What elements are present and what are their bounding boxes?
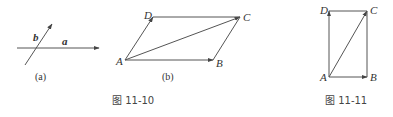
point-B-label: B — [216, 58, 223, 69]
figure-11-10-caption: 图 11-10 — [112, 96, 154, 106]
vector-b-label: b — [33, 32, 39, 43]
point-D-label: D — [320, 5, 328, 16]
vector-AC-arrow — [125, 17, 240, 60]
point-A-label: A — [116, 56, 123, 67]
point-C-label: C — [243, 12, 250, 23]
point-B-label: B — [370, 72, 377, 83]
vector-AC-arrow — [329, 11, 367, 77]
vector-AD-arrow — [125, 17, 153, 60]
point-D-label: D — [144, 10, 152, 21]
subfigure-a-label: (a) — [35, 72, 46, 82]
subfigure-b-label: (b) — [162, 72, 174, 82]
segment-BC — [213, 17, 240, 60]
figure-11-10-b — [125, 17, 240, 60]
point-A-label: A — [320, 72, 327, 83]
figure-11-11 — [329, 11, 367, 77]
figure-11-11-caption: 图 11-11 — [325, 96, 367, 106]
vector-a-label: a — [62, 36, 68, 47]
point-C-label: C — [370, 5, 377, 16]
figure-11-10-a — [17, 24, 99, 65]
